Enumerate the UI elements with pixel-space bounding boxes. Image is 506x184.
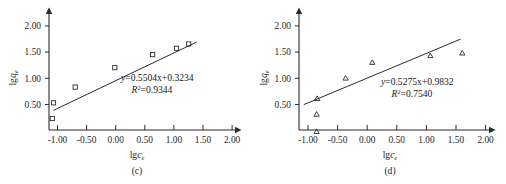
x-tick-label-4: 1.00 — [166, 135, 183, 145]
data-point — [314, 112, 319, 117]
panel-d-plot: 0.50 1.00 1.50 2.00 -1.00 -0.50 0.00 0.5… — [253, 0, 506, 184]
y-axis-title: lgqe — [258, 70, 270, 85]
panel-c: 0.50 1.00 1.50 2.00 -1.00 -0.50 0.00 0.5… — [0, 0, 253, 184]
x-axis-title: lgce — [130, 149, 145, 161]
x-tick-label-2: 0.00 — [359, 135, 376, 145]
x-tick-label-0: -1.00 — [298, 135, 318, 145]
data-point — [151, 53, 155, 57]
data-point — [343, 76, 348, 81]
figure-two-panel-scatter: 0.50 1.00 1.50 2.00 -1.00 -0.50 0.00 0.5… — [0, 0, 506, 184]
x-tick-label-2: 0.00 — [107, 135, 124, 145]
panel-label-c: (c) — [132, 165, 143, 177]
y-axis-title: lgqe — [7, 70, 19, 85]
x-tick-label-3: 0.50 — [389, 135, 406, 145]
data-point — [460, 50, 465, 55]
data-point — [174, 46, 178, 50]
data-point — [50, 116, 54, 120]
x-axis-title-sub: e — [394, 154, 397, 161]
panel-d: 0.50 1.00 1.50 2.00 -1.00 -0.50 0.00 0.5… — [253, 0, 506, 184]
x-tick-label-5: 1.50 — [195, 135, 212, 145]
y-tick-label-3: 2.00 — [275, 21, 292, 31]
x-tick-label-1: -0.50 — [77, 135, 97, 145]
r-squared-text: R2=0.9344 — [131, 84, 173, 95]
x-axis-title: lgce — [383, 149, 398, 161]
equation-body: =0.5504x+0.3234 — [125, 72, 194, 83]
y-tick-label-0: 0.50 — [275, 100, 292, 110]
panel-c-plot: 0.50 1.00 1.50 2.00 -1.00 -0.50 0.00 0.5… — [0, 0, 253, 184]
x-tick-label-4: 1.00 — [418, 135, 435, 145]
y-tick-label-1: 1.00 — [275, 74, 292, 84]
data-point — [73, 85, 77, 89]
y-tick-label-0: 0.50 — [25, 100, 42, 110]
data-point — [51, 101, 55, 105]
r-squared-value: =0.7540 — [401, 88, 433, 99]
y-tick-label-1: 1.00 — [25, 74, 42, 84]
x-axis-title-sub: e — [141, 154, 144, 161]
regression-equation: y=0.5504x+0.3234 — [120, 72, 194, 83]
x-tick-label-6: 2.00 — [477, 135, 494, 145]
data-point — [113, 66, 117, 70]
data-point — [370, 60, 375, 65]
y-axis-title-sub: e — [263, 70, 270, 73]
y-tick-label-3: 2.00 — [25, 21, 42, 31]
regression-line — [304, 39, 461, 105]
y-axis-title-sub: e — [12, 70, 19, 73]
x-tick-label-3: 0.50 — [137, 135, 154, 145]
y-tick-label-2: 1.50 — [25, 47, 42, 57]
r-squared-value: =0.9344 — [141, 84, 173, 95]
equation-body: =0.5275x+0.9832 — [385, 76, 454, 87]
data-point — [428, 53, 433, 58]
r-squared-text: R2=0.7540 — [391, 88, 433, 99]
panel-label-d: (d) — [384, 165, 395, 177]
x-tick-label-6: 2.00 — [224, 135, 241, 145]
x-tick-label-0: -1.00 — [48, 135, 68, 145]
x-tick-label-1: -0.50 — [328, 135, 348, 145]
x-tick-label-5: 1.50 — [448, 135, 465, 145]
regression-equation: y=0.5275x+0.9832 — [380, 76, 454, 87]
y-tick-label-2: 1.50 — [275, 47, 292, 57]
